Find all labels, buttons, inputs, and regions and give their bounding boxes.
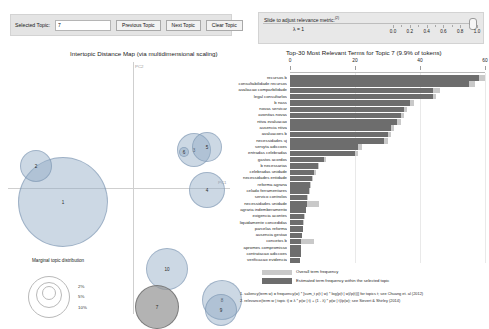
bar-term-label[interactable]: agraria indemberamento — [229, 207, 287, 212]
bar-row[interactable]: verificacao evidencia — [232, 258, 485, 264]
bar-estimated — [290, 188, 309, 194]
topic-bubble-label-2: 2 — [35, 164, 38, 169]
bar-term-label[interactable]: celebradas unidade — [229, 169, 287, 174]
marginal-circle-10pct — [28, 276, 70, 318]
bar-row[interactable]: necessidades unidade — [232, 201, 485, 207]
bar-term-label[interactable]: legal consultarlos — [229, 94, 287, 99]
bar-row[interactable]: ausencia ntiva — [232, 125, 485, 131]
bar-term-label[interactable]: necessidades entidade — [229, 175, 287, 180]
bar-row[interactable]: recursos b — [232, 75, 485, 81]
bar-row[interactable]: avonitas novas — [232, 113, 485, 119]
bar-row[interactable]: servico controlos — [232, 195, 485, 201]
topic-bubble-label-1: 1 — [62, 200, 65, 205]
bar-chart-tick-label: 0 — [289, 58, 292, 63]
slider-minor-tick — [469, 25, 470, 27]
bar-chart-tick — [420, 66, 421, 70]
slider-tick — [410, 25, 411, 28]
bar-row[interactable]: necessidades uj — [232, 138, 485, 144]
legend-row-overall: Overall term frequency — [262, 269, 432, 276]
y-axis-line — [133, 62, 134, 314]
bar-term-label[interactable]: novas servicar — [229, 106, 287, 111]
bar-row[interactable]: contratacao adiccoes — [232, 251, 485, 257]
slider-tick-label: 0.6 — [440, 29, 446, 34]
bar-row[interactable]: agraria indemberamento — [232, 207, 485, 213]
selected-topic-input[interactable] — [55, 20, 111, 31]
bar-estimated — [290, 207, 306, 213]
bar-row[interactable]: b necessarias — [232, 163, 485, 169]
intertopic-map-title: Intertopic Distance Map (via multidimens… — [70, 50, 218, 57]
bar-row[interactable]: novas servicar — [232, 107, 485, 113]
bar-row[interactable]: ausencia gestao — [232, 233, 485, 239]
bar-row[interactable]: gastos acordos — [232, 157, 485, 163]
bar-term-label[interactable]: recursos b — [229, 75, 287, 80]
bar-row[interactable]: avaluacoes b — [232, 132, 485, 138]
next-topic-button[interactable]: Next Topic — [166, 20, 201, 31]
slider-tick — [477, 25, 478, 28]
bar-term-label[interactable]: b nass — [229, 100, 287, 105]
bar-estimated — [290, 251, 301, 257]
bar-term-label[interactable]: ausencia gestao — [229, 232, 287, 237]
bar-term-label[interactable]: necessidades unidade — [229, 201, 287, 206]
bar-term-label[interactable]: gastos acordos — [229, 157, 287, 162]
bar-term-label[interactable]: celado ferramentares — [229, 188, 287, 193]
bar-term-label[interactable]: b necessarias — [229, 163, 287, 168]
bar-chart-tick-label: 20 — [352, 58, 357, 63]
bar-row[interactable]: b nass — [232, 100, 485, 106]
marginal-label-10pct: 10% — [78, 305, 87, 310]
bar-term-label[interactable]: apromes compromisso — [229, 245, 287, 250]
bar-term-label[interactable]: avaliacao comparbilidade — [229, 87, 287, 92]
slider-tick — [460, 25, 461, 28]
bar-term-label[interactable]: entradas celebradas — [229, 150, 287, 155]
bar-row[interactable]: celado ferramentares — [232, 188, 485, 194]
slider-minor-tick — [401, 25, 402, 27]
slider-tick-label: 0.0 — [390, 29, 396, 34]
relevance-slider-label: Slide to adjust relevance metric:(2) — [264, 16, 339, 23]
bar-term-label[interactable]: contratacao adiccoes — [229, 251, 287, 256]
bar-row[interactable]: consultabilidade recursos — [232, 81, 485, 87]
bar-row[interactable]: liquidamente concedidas — [232, 220, 485, 226]
bar-estimated — [290, 239, 301, 245]
bar-estimated — [290, 220, 303, 226]
bar-term-label[interactable]: verificacao evidencia — [229, 257, 287, 262]
bar-term-label[interactable]: ntiva evaluacao — [229, 119, 287, 124]
top-terms-bar-chart: 0204060 recursos bconsultabilidade recur… — [232, 62, 487, 267]
bar-row[interactable]: servyta adiccoes — [232, 144, 485, 150]
slider-minor-tick — [435, 25, 436, 27]
bar-term-label[interactable]: reforma agrana — [229, 182, 287, 187]
bar-term-label[interactable]: parcelas reforma — [229, 226, 287, 231]
bar-term-label[interactable]: necessidades uj — [229, 138, 287, 143]
bar-row[interactable]: celebradas unidade — [232, 170, 485, 176]
bar-term-label[interactable]: ausencia ntiva — [229, 125, 287, 130]
bar-estimated — [290, 100, 410, 106]
bar-row[interactable]: reforma agrana — [232, 182, 485, 188]
bar-row[interactable]: entradas celebradas — [232, 151, 485, 157]
topic-bubble-label-4: 4 — [206, 188, 209, 193]
bar-term-label[interactable]: concetos b — [229, 238, 287, 243]
bar-term-label[interactable]: avonitas novas — [229, 112, 287, 117]
bar-row[interactable]: avaliacao comparbilidade — [232, 88, 485, 94]
legend-swatch-overall — [262, 270, 292, 276]
clear-topic-button[interactable]: Clear Topic — [206, 20, 243, 31]
bar-row[interactable]: legal consultarlos — [232, 94, 485, 100]
bar-estimated — [290, 151, 355, 157]
bar-row[interactable]: ntiva evaluacao — [232, 119, 485, 125]
bar-row[interactable]: parcelas reforma — [232, 226, 485, 232]
bar-row[interactable]: necessidades entidade — [232, 176, 485, 182]
bar-estimated — [290, 157, 324, 163]
bar-term-label[interactable]: avaluacoes b — [229, 131, 287, 136]
bar-term-label[interactable]: servico controlos — [229, 194, 287, 199]
bar-estimated — [290, 170, 314, 176]
topic-bubble-label-5: 5 — [206, 145, 209, 150]
bar-term-label[interactable]: exigencia acontes — [229, 213, 287, 218]
bar-term-label[interactable]: liquidamente concedidas — [229, 220, 287, 225]
slider-tick-label: 0.2 — [407, 29, 413, 34]
bar-row[interactable]: exigencia acontes — [232, 214, 485, 220]
marginal-legend-title: Marginal topic distribution — [32, 258, 84, 263]
bar-term-label[interactable]: consultabilidade recursos — [229, 81, 287, 86]
previous-topic-button[interactable]: Previous Topic — [116, 20, 160, 31]
bar-term-label[interactable]: servyta adiccoes — [229, 144, 287, 149]
relevance-slider-track[interactable] — [263, 23, 477, 24]
bar-row[interactable]: apromes compromisso — [232, 245, 485, 251]
bar-row[interactable]: concetos b — [232, 239, 485, 245]
slider-tick-label: 0.4 — [423, 29, 429, 34]
